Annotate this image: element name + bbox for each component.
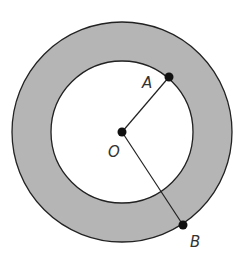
point-o (118, 128, 127, 137)
point-b (179, 221, 188, 230)
label-b: B (190, 233, 200, 251)
point-a (165, 73, 174, 82)
label-a: A (141, 74, 152, 92)
label-o: O (108, 143, 120, 161)
annulus-diagram: A O B (0, 0, 243, 265)
